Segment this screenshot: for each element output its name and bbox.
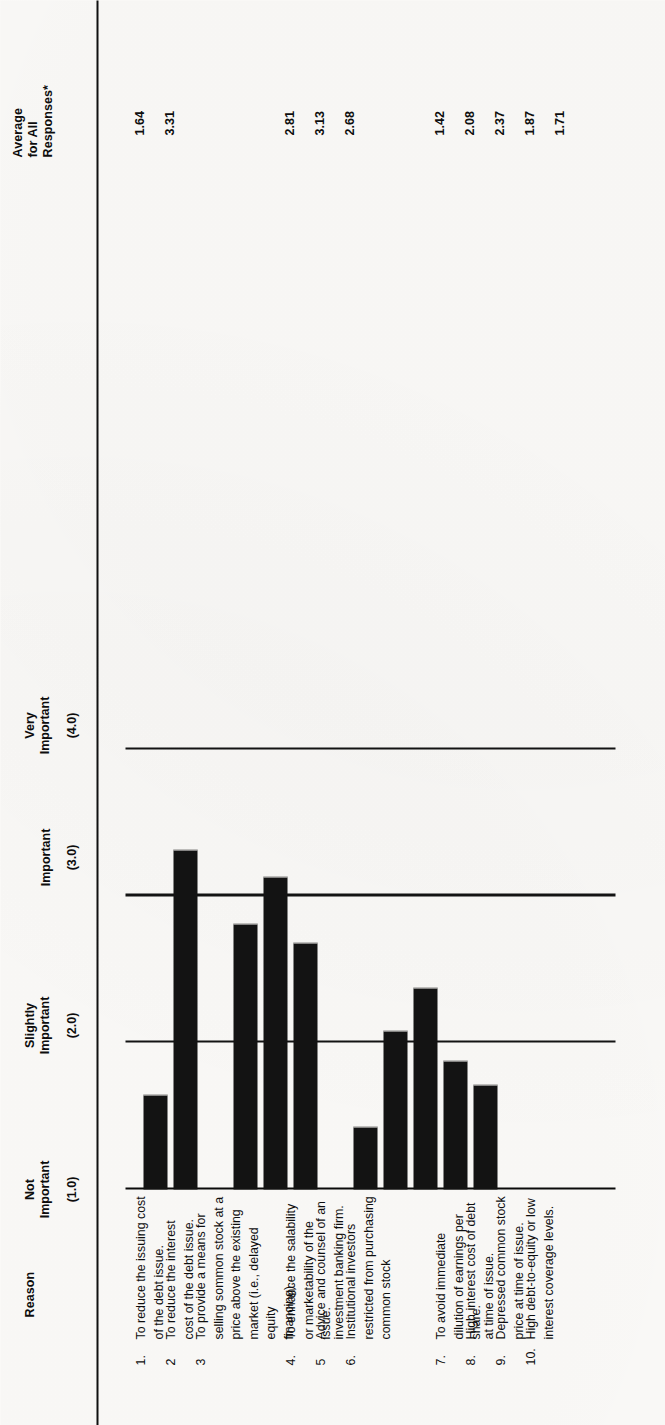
bar-8: [383, 1030, 407, 1189]
bar-6: [293, 942, 317, 1189]
scale-caption-slightly-important: Slightly Important: [22, 970, 52, 1080]
gridline-3.0: [125, 893, 615, 895]
scale-tick-1: (1.0): [64, 1166, 78, 1212]
bar-11: [473, 1084, 497, 1189]
reason-number: 10.: [522, 1345, 557, 1365]
bar-chart-figure: Reason Average for All Responses* Not Im…: [0, 0, 665, 1425]
scale-tick-3: (3.0): [64, 834, 78, 880]
reason-row: 6.Institutional investors restricted fro…: [342, 1195, 395, 1365]
reason-text: High debt-to-equity or low interest cove…: [522, 1195, 557, 1339]
scale-caption-not-important: Not Important: [22, 1134, 52, 1244]
plot-area: [125, 749, 615, 1189]
bar-7: [353, 1126, 377, 1189]
bar-2: [173, 849, 197, 1189]
bar-10: [443, 1060, 467, 1189]
gridline-2.0: [125, 1040, 615, 1042]
reason-text: Institutional investors restricted from …: [342, 1195, 395, 1339]
bar-9: [413, 987, 437, 1189]
scale-caption-very-important: Very Important: [22, 670, 52, 780]
average-value: 3.31: [162, 95, 176, 135]
bar-1: [143, 1094, 167, 1189]
average-value: 2.37: [492, 95, 506, 135]
average-value: 1.64: [132, 95, 146, 135]
reason-row: 10.High debt-to-equity or low interest c…: [522, 1195, 557, 1365]
average-value: 2.68: [342, 95, 356, 135]
average-value: 2.81: [282, 95, 296, 135]
scanned-page: Reason Average for All Responses* Not Im…: [0, 0, 665, 1425]
scale-tick-2: (2.0): [64, 1002, 78, 1048]
average-value: 1.71: [552, 95, 566, 135]
reason-number: 6.: [342, 1345, 395, 1365]
gridline-4.0: [125, 747, 615, 749]
average-value: 1.42: [432, 95, 446, 135]
header-divider: [96, 0, 98, 1425]
average-value: 3.13: [312, 95, 326, 135]
scale-caption-important: Important: [38, 802, 53, 912]
scale-tick-4: (4.0): [64, 702, 78, 748]
column-header-average: Average for All Responses*: [10, 7, 54, 157]
bar-5: [263, 876, 287, 1189]
average-value: 2.08: [462, 95, 476, 135]
bar-4: [233, 923, 257, 1189]
average-value: 1.87: [522, 95, 536, 135]
